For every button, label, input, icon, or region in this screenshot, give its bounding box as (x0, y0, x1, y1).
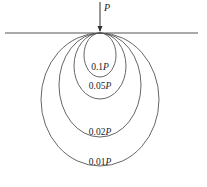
contour-label-0.05P: 0.05P (89, 81, 112, 91)
contour-label-0.02P: 0.02P (89, 127, 112, 137)
arrowhead-icon (98, 26, 103, 32)
stress-bulb-diagram: P 0.1P 0.05P 0.02P 0.01P (0, 0, 207, 187)
contour-0.01P (41, 33, 159, 166)
contour-label-0.01P: 0.01P (89, 157, 112, 167)
load-label: P (103, 2, 110, 13)
contour-label-0.1P: 0.1P (91, 62, 109, 72)
